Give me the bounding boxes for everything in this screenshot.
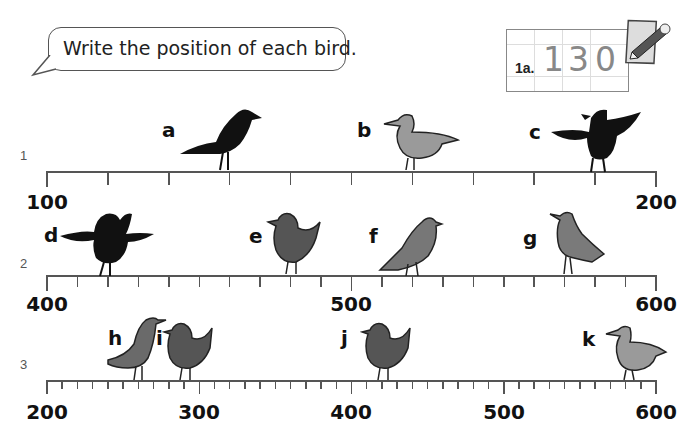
- tick-label: 300: [178, 400, 220, 424]
- tick-mark: [564, 275, 566, 287]
- tick-mark: [579, 380, 581, 389]
- tick-mark: [61, 380, 63, 389]
- tick-mark: [290, 171, 292, 185]
- instruction-text: Write the position of each bird.: [63, 37, 357, 59]
- tick-mark: [244, 380, 246, 389]
- tick-mark: [320, 275, 322, 287]
- bird-letter-k: k: [582, 327, 595, 351]
- tick-mark: [46, 171, 48, 187]
- crow-icon: [178, 104, 264, 172]
- tick-mark: [336, 380, 338, 389]
- tick-label: 600: [635, 292, 677, 316]
- tick-mark: [503, 380, 505, 394]
- tick-mark: [229, 275, 231, 287]
- tick-mark: [457, 380, 459, 389]
- tick-mark: [229, 380, 231, 389]
- tick-mark: [46, 380, 48, 394]
- tick-mark: [473, 380, 475, 389]
- answer-digit: 1: [543, 40, 564, 79]
- answer-digit: 3: [568, 40, 589, 79]
- bubble-tail: [30, 55, 60, 77]
- tick-mark: [549, 380, 551, 389]
- pigeon-icon: [378, 212, 444, 276]
- tick-mark: [442, 275, 444, 287]
- answer-digit: 0: [595, 40, 616, 79]
- robin-icon: [162, 320, 218, 382]
- tick-mark: [594, 380, 596, 389]
- bird-letter-c: c: [529, 120, 541, 144]
- bird-letter-e: e: [249, 224, 263, 248]
- tick-mark: [381, 275, 383, 287]
- tick-mark: [533, 275, 535, 287]
- tick-mark: [290, 275, 292, 287]
- tick-label: 500: [330, 292, 372, 316]
- robin-icon: [360, 320, 416, 382]
- tick-mark: [427, 380, 429, 389]
- tick-mark: [229, 171, 231, 185]
- tick-mark: [564, 380, 566, 389]
- blackbird-icon: [106, 314, 168, 382]
- tick-label: 200: [635, 190, 677, 214]
- tick-label: 400: [26, 292, 68, 316]
- tick-mark: [351, 380, 353, 394]
- tick-mark: [655, 171, 657, 187]
- example-answer-box: 1a. 1 3 0: [506, 29, 629, 92]
- row-label-1: 1: [20, 148, 27, 163]
- tick-mark: [503, 275, 505, 287]
- tick-mark: [275, 380, 277, 389]
- robin-icon: [266, 210, 326, 276]
- tick-mark: [442, 380, 444, 389]
- tick-mark: [473, 171, 475, 185]
- bird-letter-d: d: [44, 223, 58, 247]
- tick-mark: [199, 380, 201, 394]
- instruction-bubble: Write the position of each bird.: [48, 27, 346, 71]
- tick-mark: [290, 380, 292, 389]
- question-label: 1a.: [515, 60, 534, 76]
- crow-icon: [60, 210, 156, 278]
- tick-mark: [473, 275, 475, 287]
- tick-label: 600: [635, 400, 677, 424]
- tick-mark: [412, 171, 414, 185]
- bird-letter-f: f: [369, 224, 378, 248]
- bird-letter-a: a: [162, 118, 176, 142]
- thrush-icon: [548, 208, 606, 276]
- tick-mark: [77, 380, 79, 389]
- tick-mark: [655, 380, 657, 394]
- tick-mark: [305, 380, 307, 389]
- pigeon-icon: [382, 110, 462, 172]
- tick-mark: [412, 275, 414, 287]
- tick-mark: [168, 275, 170, 287]
- tick-mark: [320, 380, 322, 389]
- tick-mark: [107, 171, 109, 185]
- crow-icon: [551, 106, 643, 174]
- tick-mark: [199, 275, 201, 287]
- tick-label: 400: [330, 400, 372, 424]
- bird-letter-b: b: [357, 118, 371, 142]
- tick-mark: [351, 275, 353, 291]
- tick-mark: [518, 380, 520, 389]
- row-label-2: 2: [20, 256, 27, 271]
- tick-label: 500: [483, 400, 525, 424]
- bird-letter-g: g: [523, 226, 537, 250]
- tick-mark: [46, 275, 48, 291]
- row-label-3: 3: [20, 357, 27, 372]
- tick-mark: [655, 275, 657, 291]
- bird-letter-j: j: [341, 326, 348, 350]
- tick-mark: [168, 171, 170, 185]
- tick-mark: [533, 380, 535, 389]
- pigeon-icon: [604, 322, 668, 382]
- tick-mark: [533, 171, 535, 185]
- tick-mark: [92, 380, 94, 389]
- pencil-paper-icon: [622, 18, 674, 68]
- tick-mark: [625, 275, 627, 287]
- tick-mark: [488, 380, 490, 389]
- tick-mark: [594, 275, 596, 287]
- tick-mark: [259, 380, 261, 389]
- tick-mark: [259, 275, 261, 287]
- tick-label: 200: [26, 400, 68, 424]
- tick-mark: [351, 171, 353, 185]
